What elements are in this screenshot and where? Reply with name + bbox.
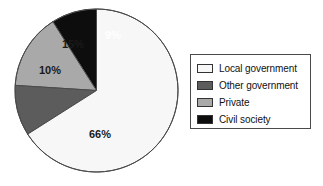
pie-chart-figure: 9% 15% 10% 66% Local government Other go… [0,0,323,186]
pie-chart: 9% 15% 10% 66% [10,3,186,183]
legend-label-local-government: Local government [219,63,297,74]
legend-label-private: Private [219,97,249,108]
legend-item-civil-society[interactable]: Civil society [197,111,310,127]
legend-swatch-local-government [197,64,213,73]
legend-swatch-civil-society [197,115,213,124]
legend-swatch-other-government [197,81,213,90]
legend-label-other-government: Other government [219,80,298,91]
chart-legend: Local government Other government Privat… [190,54,311,129]
pie-label-private: 15% [62,38,84,50]
legend-item-local-government[interactable]: Local government [197,60,310,76]
pie-label-civil-society: 9% [105,29,121,41]
legend-item-private[interactable]: Private [197,94,310,110]
legend-item-other-government[interactable]: Other government [197,77,310,93]
legend-swatch-private [197,98,213,107]
pie-label-local-government: 66% [89,128,111,140]
pie-label-other-government: 10% [39,64,61,76]
legend-label-civil-society: Civil society [219,114,271,125]
